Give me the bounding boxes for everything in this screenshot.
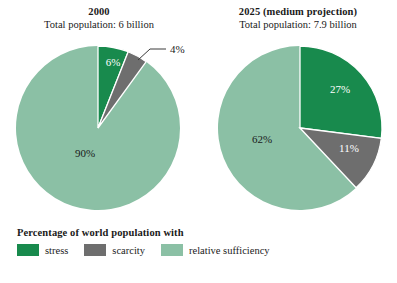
pie-chart-left: 6% 90% 4% — [0, 35, 198, 215]
legend-items: stress scarcity relative sufficiency — [17, 244, 377, 256]
legend-swatch-stress — [17, 244, 39, 256]
legend: Percentage of world population with stre… — [17, 227, 377, 256]
pie-chart-right: 27% 11% 62% — [199, 35, 397, 215]
pie-slice-label-sufficiency-left: 90% — [75, 147, 95, 159]
legend-label-stress: stress — [45, 245, 68, 256]
chart-title-left: 2000 — [0, 5, 198, 18]
pie-svg-left: 6% 90% 4% — [0, 35, 198, 215]
chart-subtitle-right: Total population: 7.9 billion — [199, 18, 397, 31]
pie-panel-2000: 2000 Total population: 6 billion 6% 90% … — [0, 0, 198, 215]
pie-slice-label-stress-left: 6% — [106, 56, 121, 68]
legend-item-sufficiency[interactable]: relative sufficiency — [161, 244, 286, 256]
pie-slice-label-scarcity-left: 4% — [170, 43, 185, 55]
pie-slice-label-scarcity-right: 11% — [339, 142, 359, 154]
legend-label-sufficiency: relative sufficiency — [189, 245, 270, 256]
pie-svg-right: 27% 11% 62% — [199, 35, 397, 215]
chart-title-right: 2025 (medium projection) — [199, 5, 397, 18]
pie-panel-2025: 2025 (medium projection) Total populatio… — [199, 0, 397, 215]
legend-item-stress[interactable]: stress — [17, 244, 84, 256]
legend-item-scarcity[interactable]: scarcity — [84, 244, 161, 256]
pie-slice-label-stress-right: 27% — [330, 83, 350, 95]
legend-heading: Percentage of world population with — [17, 227, 377, 238]
legend-label-scarcity: scarcity — [112, 245, 145, 256]
chart-subtitle-left: Total population: 6 billion — [0, 18, 198, 31]
legend-swatch-sufficiency — [161, 244, 183, 256]
legend-swatch-scarcity — [84, 244, 106, 256]
pie-slice-label-sufficiency-right: 62% — [252, 133, 272, 145]
